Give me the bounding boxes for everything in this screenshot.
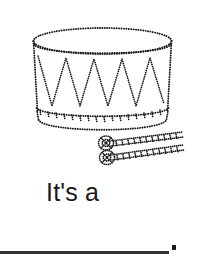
drum-side-right bbox=[168, 41, 172, 112]
caption-text: It's a bbox=[46, 178, 99, 206]
drum-side-left bbox=[34, 41, 38, 112]
end-dot bbox=[172, 245, 176, 250]
drum-zigzag bbox=[38, 56, 164, 106]
drumstick-lower bbox=[100, 145, 185, 165]
drum-group bbox=[34, 28, 172, 130]
handwriting-rule bbox=[0, 251, 169, 254]
drum-upper-rim bbox=[34, 45, 171, 54]
drumsticks-group bbox=[99, 132, 185, 165]
drum-artwork: .dot { fill: none; stroke: #1a1a1a; stro… bbox=[0, 0, 205, 259]
drum-bottom-arc bbox=[39, 120, 167, 130]
drum-bottom-left-edge bbox=[37, 112, 38, 120]
drum-bottom-right-edge bbox=[166, 112, 167, 120]
worksheet-page: .dot { fill: none; stroke: #1a1a1a; stro… bbox=[0, 0, 205, 259]
